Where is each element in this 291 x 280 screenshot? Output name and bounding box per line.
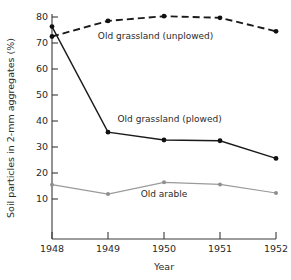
y-tick-label: 60: [36, 63, 48, 74]
x-tick-label: 1952: [264, 243, 288, 254]
x-axis-ticks: 19481949195019511952: [40, 232, 288, 254]
data-series-group: [50, 14, 279, 196]
y-tick-label: 80: [36, 11, 48, 22]
y-tick-label: 10: [36, 193, 48, 204]
y-axis: 1020304050607080: [36, 11, 58, 239]
data-point: [106, 19, 111, 24]
y-tick-label: 40: [36, 115, 48, 126]
y-tick-label: 20: [36, 167, 48, 178]
data-point: [50, 183, 54, 187]
data-point: [218, 138, 223, 143]
x-tick-label: 1951: [208, 243, 232, 254]
data-point: [162, 138, 167, 143]
data-point: [50, 34, 55, 39]
x-tick-label: 1949: [96, 243, 120, 254]
data-point: [274, 191, 278, 195]
data-point: [274, 156, 279, 161]
x-tick-label: 1948: [40, 243, 64, 254]
line-chart-canvas: 1020304050607080 19481949195019511952 Ol…: [0, 0, 291, 280]
data-point: [50, 24, 55, 29]
data-point: [162, 14, 167, 19]
y-axis-title: Soil particles in 2-mm aggregates (%): [5, 38, 16, 218]
y-tick-label: 70: [36, 37, 48, 48]
x-tick-label: 1950: [152, 243, 176, 254]
y-tick-label: 30: [36, 141, 48, 152]
data-point: [218, 182, 222, 186]
y-tick-label: 50: [36, 89, 48, 100]
data-point: [106, 130, 111, 135]
data-point: [218, 15, 223, 20]
series-label-0: Old grassland (unplowed): [98, 31, 214, 41]
data-point: [274, 29, 279, 34]
x-axis-title: Year: [153, 261, 174, 272]
series-label-1: Old grassland (plowed): [118, 114, 222, 124]
chart-figure: 1020304050607080 19481949195019511952 Ol…: [0, 0, 291, 280]
y-axis-ticks: 1020304050607080: [36, 11, 58, 204]
data-point: [106, 192, 110, 196]
series-label-2: Old arable: [141, 189, 188, 199]
data-point: [162, 180, 166, 184]
series-annotations: Old grassland (unplowed)Old grassland (p…: [98, 31, 222, 199]
x-axis: 19481949195019511952: [40, 232, 288, 254]
